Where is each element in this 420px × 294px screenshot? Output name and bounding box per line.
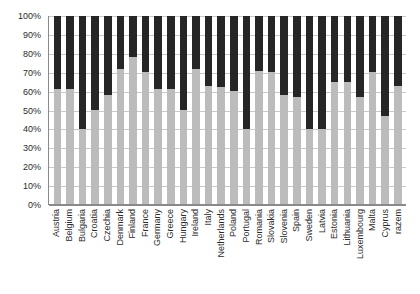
- stacked-bar[interactable]: [293, 16, 301, 204]
- bar-segment-upper: [217, 16, 225, 87]
- x-axis-label-slot: Sweden: [303, 207, 316, 293]
- stacked-bar[interactable]: [306, 16, 314, 204]
- stacked-bar[interactable]: [91, 16, 99, 204]
- bar-slot: [202, 16, 215, 204]
- x-axis-label-slot: Austria: [50, 207, 63, 293]
- bar-segment-upper: [268, 16, 276, 72]
- bar-segment-upper: [66, 16, 74, 89]
- bar-slot: [341, 16, 354, 204]
- stacked-bar[interactable]: [318, 16, 326, 204]
- stacked-bar[interactable]: [230, 16, 238, 204]
- bar-segment-upper: [79, 16, 87, 129]
- stacked-bar[interactable]: [344, 16, 352, 204]
- bar-segment-lower: [104, 95, 112, 204]
- x-axis-label-slot: Lithuania: [341, 207, 354, 293]
- bar-segment-lower: [243, 129, 251, 204]
- stacked-bar[interactable]: [154, 16, 162, 204]
- bar-slot: [366, 16, 379, 204]
- x-axis-tick-label: Finland: [128, 209, 137, 239]
- bar-segment-upper: [243, 16, 251, 129]
- stacked-bar[interactable]: [117, 16, 125, 204]
- stacked-bar[interactable]: [394, 16, 402, 204]
- bar-slot: [265, 16, 278, 204]
- bar-segment-upper: [180, 16, 188, 110]
- bar-segment-lower: [318, 129, 326, 204]
- y-axis-tick-label: 100%: [18, 12, 41, 21]
- stacked-bar[interactable]: [66, 16, 74, 204]
- stacked-bar[interactable]: [356, 16, 364, 204]
- x-axis-label-slot: Slovenia: [278, 207, 291, 293]
- bar-segment-lower: [180, 110, 188, 204]
- bar-segment-upper: [91, 16, 99, 110]
- x-axis-tick-label: Netherlands: [216, 209, 225, 258]
- x-axis-label-slot: razem: [391, 207, 404, 293]
- stacked-bar[interactable]: [280, 16, 288, 204]
- stacked-bar[interactable]: [142, 16, 150, 204]
- bar-segment-lower: [167, 89, 175, 204]
- y-axis: 100%90%80%70%60%50%40%30%20%10%0%: [0, 0, 46, 207]
- stacked-bar[interactable]: [217, 16, 225, 204]
- stacked-bar[interactable]: [54, 16, 62, 204]
- x-axis-tick-label: Latvia: [317, 209, 326, 233]
- stacked-bar[interactable]: [268, 16, 276, 204]
- x-axis-label-slot: Italy: [202, 207, 215, 293]
- bar-slot: [127, 16, 140, 204]
- y-axis-tick-label: 20%: [23, 163, 41, 172]
- y-axis-tick-label: 60%: [23, 87, 41, 96]
- bar-segment-lower: [268, 72, 276, 204]
- x-axis-tick-label: Germany: [153, 209, 162, 246]
- stacked-bar[interactable]: [79, 16, 87, 204]
- bar-segment-upper: [167, 16, 175, 89]
- stacked-bar[interactable]: [331, 16, 339, 204]
- stacked-bar[interactable]: [381, 16, 389, 204]
- x-axis-label-slot: Hungary: [176, 207, 189, 293]
- bar-segment-lower: [306, 129, 314, 204]
- stacked-bar[interactable]: [104, 16, 112, 204]
- x-axis-label-slot: Estonia: [328, 207, 341, 293]
- stacked-bar[interactable]: [167, 16, 175, 204]
- x-axis-tick-label: Belgium: [64, 209, 73, 242]
- x-axis-label-slot: Spain: [290, 207, 303, 293]
- bar-segment-lower: [230, 91, 238, 204]
- bar-segment-upper: [331, 16, 339, 82]
- bar-segment-lower: [280, 95, 288, 204]
- bar-segment-upper: [255, 16, 263, 71]
- bar-slot: [253, 16, 266, 204]
- x-axis-tick-label: Croatia: [90, 209, 99, 238]
- bar-slot: [177, 16, 190, 204]
- x-axis-tick-label: Hungary: [178, 209, 187, 243]
- plot-area: [48, 16, 406, 205]
- bar-segment-upper: [306, 16, 314, 129]
- bar-slot: [152, 16, 165, 204]
- x-axis-tick-label: Portugal: [241, 209, 250, 243]
- y-axis-tick-label: 10%: [23, 182, 41, 191]
- stacked-bar[interactable]: [369, 16, 377, 204]
- bar-segment-upper: [104, 16, 112, 95]
- x-axis-tick-label: Estonia: [330, 209, 339, 239]
- x-axis-label-slot: Luxembourg: [353, 207, 366, 293]
- x-axis-tick-label: Italy: [204, 209, 213, 226]
- bar-segment-lower: [54, 89, 62, 204]
- stacked-bar[interactable]: [180, 16, 188, 204]
- stacked-bar[interactable]: [129, 16, 137, 204]
- y-axis-tick-label: 50%: [23, 106, 41, 115]
- bar-segment-upper: [154, 16, 162, 89]
- x-axis-label-slot: Portugal: [240, 207, 253, 293]
- stacked-bar[interactable]: [205, 16, 213, 204]
- bar-segment-lower: [117, 69, 125, 204]
- y-axis-tick-label: 30%: [23, 144, 41, 153]
- x-axis-label-slot: Latvia: [315, 207, 328, 293]
- bar-slot: [278, 16, 291, 204]
- bar-segment-lower: [217, 87, 225, 204]
- bar-slot: [101, 16, 114, 204]
- bar-segment-lower: [331, 82, 339, 204]
- stacked-bar[interactable]: [192, 16, 200, 204]
- stacked-bar[interactable]: [255, 16, 263, 204]
- bar-segment-upper: [129, 16, 137, 57]
- x-axis-label-slot: Greece: [164, 207, 177, 293]
- bar-segment-lower: [154, 89, 162, 204]
- x-axis-tick-label: Greece: [166, 209, 175, 239]
- bar-segment-upper: [356, 16, 364, 97]
- bar-slot: [190, 16, 203, 204]
- stacked-bar[interactable]: [243, 16, 251, 204]
